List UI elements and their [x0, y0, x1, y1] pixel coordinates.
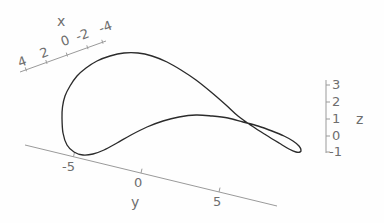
x-axis-tick-minus2: [87, 45, 88, 49]
parametric-curve: [62, 53, 301, 155]
plot-svg: [0, 0, 384, 223]
y-axis-group: [25, 145, 277, 206]
y-axis-title: y: [131, 195, 139, 209]
z-tick-label-0: 0: [332, 129, 340, 142]
z-tick-label-3: 3: [332, 78, 340, 91]
z-tick-label-1: 1: [332, 112, 340, 125]
y-axis-tick-0: [141, 169, 142, 173]
x-axis-tick-minus4: [102, 40, 103, 44]
plot-canvas: 4 2 0 -2 -4 x -5 0 5 y 3 2 1 0 -1 z: [0, 0, 384, 223]
z-tick-label-minus1: -1: [329, 145, 342, 158]
y-tick-label-0: 0: [134, 176, 142, 189]
x-axis-tick-2: [46, 60, 47, 64]
z-axis-title: z: [356, 112, 363, 126]
y-tick-label-5: 5: [213, 195, 221, 208]
z-tick-label-2: 2: [332, 95, 340, 108]
x-axis-tick-0: [66, 53, 67, 57]
y-axis-tick-5: [219, 188, 220, 192]
x-axis-title: x: [57, 14, 65, 28]
y-axis-line: [25, 145, 277, 206]
z-axis-group: [326, 80, 330, 153]
y-tick-label-minus5: -5: [62, 160, 75, 173]
